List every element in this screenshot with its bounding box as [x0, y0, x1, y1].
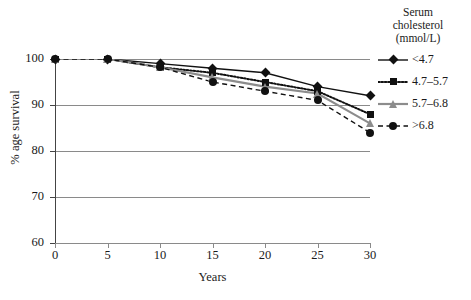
- plot-area: [55, 59, 370, 243]
- legend-key-triangle-icon: [378, 97, 408, 111]
- data-point: [104, 55, 112, 63]
- legend-marker-triangle-icon: [389, 100, 397, 108]
- data-point: [367, 111, 374, 118]
- x-tick-label-5: 5: [93, 249, 123, 262]
- legend-label-0: <4.7: [412, 52, 434, 67]
- chart-root: 60708090100 051015202530 Years % age sur…: [0, 0, 471, 300]
- legend-entries: <4.74.7–5.75.7–6.8>6.8: [378, 52, 470, 133]
- x-tick-label-10: 10: [145, 249, 175, 262]
- data-point: [209, 78, 217, 86]
- legend-title-line-3: (mmol/L): [372, 32, 464, 45]
- legend-title-line-1: Serum: [372, 6, 464, 19]
- series-lines: [55, 59, 370, 243]
- legend-label-3: >6.8: [412, 118, 434, 133]
- legend-marker-circle-icon: [389, 122, 397, 130]
- x-tick-label-0: 0: [40, 249, 70, 262]
- legend-entry-0[interactable]: <4.7: [378, 52, 470, 67]
- x-axis-title: Years: [0, 270, 425, 285]
- y-axis-title: % age survival: [8, 43, 23, 213]
- legend-label-2: 5.7–6.8: [412, 96, 448, 111]
- x-tick-label-15: 15: [198, 249, 228, 262]
- legend-marker-square-icon: [390, 78, 397, 85]
- legend: Serum cholesterol (mmol/L) <4.74.7–5.75.…: [378, 6, 470, 133]
- legend-key-square-icon: [378, 75, 408, 89]
- legend-title-line-2: cholesterol: [372, 19, 464, 32]
- y-tick-label-60: 60: [14, 236, 44, 248]
- legend-entry-3[interactable]: >6.8: [378, 118, 470, 133]
- legend-title: Serum cholesterol (mmol/L): [372, 6, 464, 45]
- legend-key-diamond-icon: [378, 53, 408, 67]
- x-tick-label-25: 25: [303, 249, 333, 262]
- data-point: [366, 129, 374, 137]
- legend-entry-2[interactable]: 5.7–6.8: [378, 96, 470, 111]
- data-point: [366, 119, 374, 127]
- x-tick-label-30: 30: [355, 249, 385, 262]
- legend-key-circle-icon: [378, 119, 408, 133]
- legend-label-1: 4.7–5.7: [412, 74, 448, 89]
- x-tick-label-20: 20: [250, 249, 280, 262]
- legend-entry-1[interactable]: 4.7–5.7: [378, 74, 470, 89]
- data-point: [314, 96, 322, 104]
- data-point: [51, 55, 59, 63]
